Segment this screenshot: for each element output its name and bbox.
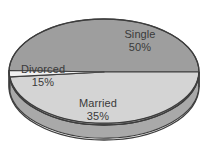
pie-chart: Single 50% Divorced 15% Married 35% <box>0 0 209 152</box>
slice-label-divorced-name: Divorced <box>6 63 80 76</box>
slice-label-married: Married 35% <box>62 97 134 122</box>
slice-label-single-name: Single <box>109 28 171 41</box>
slice-label-divorced: Divorced 15% <box>6 63 80 88</box>
slice-label-divorced-value: 15% <box>6 76 80 89</box>
slice-label-single: Single 50% <box>109 28 171 53</box>
slice-label-married-value: 35% <box>62 110 134 123</box>
slice-label-married-name: Married <box>62 97 134 110</box>
slice-label-single-value: 50% <box>109 41 171 54</box>
